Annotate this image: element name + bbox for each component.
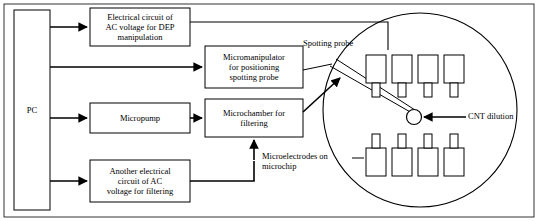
cnt-droplet [407,110,422,125]
box-label-microchamber: Microchamber for filtering [205,99,303,137]
annotation-spotting-probe: Spotting probe [303,38,383,48]
electrodes-bottom [366,134,464,176]
diagram-canvas: PC Electrical circuit of AC voltage for … [0,0,538,221]
annotation-cnt-dilution: CNT dilution [468,111,532,121]
connector-micromanipulator-to-probe [303,64,332,70]
box-label-micropump: Micropump [90,103,190,133]
box-label-dep-circuit: Electrical circuit of AC voltage for DEP… [90,8,190,46]
connector-microchamber-to-probe [303,78,340,112]
box-label-micromanipulator: Micromanipulator for positioning spottin… [205,46,303,88]
annotation-microelectrodes: Microelectrodes on microchip [262,151,354,171]
box-label-ac-filtering: Another electrical circuit of AC voltage… [90,160,190,202]
electrodes-top [366,55,464,97]
box-label-pc: PC [14,10,50,210]
connector-ac-filtering-riser [190,161,254,181]
